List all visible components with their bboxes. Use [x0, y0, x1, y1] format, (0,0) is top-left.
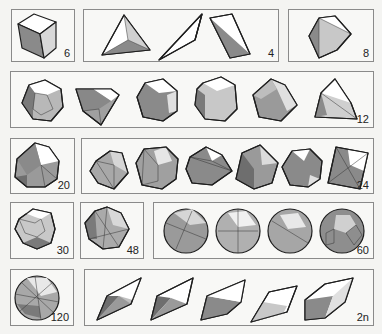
group-box-4: 4 — [83, 9, 279, 62]
trapezohedron-b-icon — [251, 286, 297, 322]
rhombohedron-icon — [305, 278, 353, 320]
truncated-cube-icon — [195, 77, 237, 121]
dodecahedron-icon — [22, 80, 63, 121]
order-24-shapes — [82, 139, 375, 195]
bipyramid-b-icon — [151, 278, 193, 320]
pentakis-dodecahedron-icon — [164, 209, 208, 253]
group-label: 60 — [357, 244, 369, 256]
rhombic-polyhedron-icon — [253, 79, 297, 121]
group-label: 12 — [357, 113, 369, 125]
group-label: 8 — [363, 47, 369, 59]
group-label: 20 — [58, 179, 70, 191]
order-60-shapes — [154, 203, 375, 260]
order-2n-shapes — [85, 270, 375, 327]
group-box-24: 24 — [81, 138, 374, 194]
triakis-tetrahedron-icon — [315, 79, 357, 119]
group-label: 24 — [357, 179, 369, 191]
pentagonal-icon — [186, 147, 232, 185]
group-label: 30 — [57, 244, 69, 256]
truncated-octahedron-icon — [282, 149, 322, 187]
group-box-20: 20 — [10, 138, 75, 194]
group-box-2n: 2n — [84, 269, 374, 326]
tetrahedron-icon — [102, 15, 150, 55]
tetrahedron-edge-icon — [210, 14, 250, 58]
bipyramid-a-icon — [97, 278, 141, 320]
group-label: 2n — [357, 311, 369, 323]
pentakis-icon — [90, 151, 128, 189]
truncated-tetrahedron-icon — [76, 89, 119, 125]
group-box-30: 30 — [10, 202, 74, 259]
group-label: 4 — [268, 47, 274, 59]
group-box-12: 12 — [10, 71, 374, 128]
group-label: 6 — [64, 47, 70, 59]
deltoidal-icon — [136, 147, 178, 189]
tetrahedron-wire-icon — [159, 14, 202, 60]
pentagonal-hexecontahedron-icon — [268, 209, 312, 253]
group-label: 48 — [127, 244, 139, 256]
group-box-120: 120 — [10, 269, 74, 326]
group-box-60: 60 — [153, 202, 374, 259]
group-box-8: 8 — [288, 9, 374, 62]
pyritohedron-icon — [137, 79, 177, 121]
group-box-6: 6 — [11, 9, 75, 62]
group-label: 120 — [51, 311, 69, 323]
trapezohedron-a-icon — [201, 280, 245, 320]
tetrahedra-icons — [84, 10, 280, 63]
order-12-shapes — [11, 72, 375, 129]
tetrakis-a-icon — [236, 145, 278, 189]
deltoidal-hexecontahedron-icon — [216, 209, 260, 253]
group-box-48: 48 — [80, 202, 144, 259]
